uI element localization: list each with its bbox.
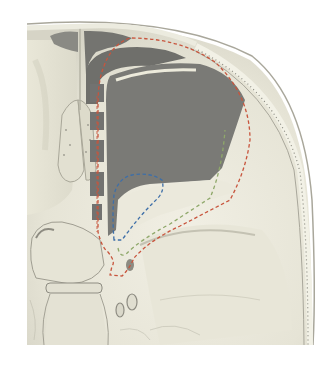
skull-base-illustration (0, 0, 332, 370)
foramen-ovale (127, 294, 137, 310)
skull-base (27, 20, 317, 350)
foramen-spinosum (116, 303, 124, 317)
